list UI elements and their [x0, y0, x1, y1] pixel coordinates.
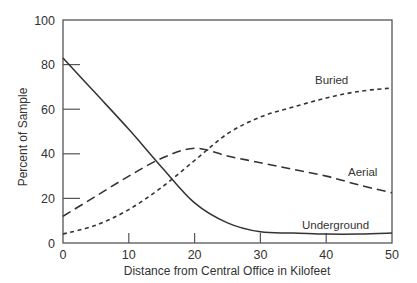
y-tick-label: 80	[41, 58, 55, 72]
x-tick-label: 40	[319, 248, 333, 262]
series-label-underground: Underground	[302, 219, 369, 231]
y-axis-title: Percent of Sample	[16, 87, 30, 186]
x-axis-title: Distance from Central Office in Kilofeet	[124, 264, 331, 278]
y-tick-label: 0	[48, 237, 55, 251]
series-line-buried	[63, 88, 392, 234]
y-axis-ticks: 020406080100	[34, 14, 80, 251]
x-tick-label: 0	[60, 248, 67, 262]
x-tick-label: 30	[253, 248, 267, 262]
series-labels: UndergroundAerialBuried	[302, 74, 377, 231]
y-tick-label: 60	[41, 103, 55, 117]
y-tick-label: 40	[41, 147, 55, 161]
y-tick-label: 20	[41, 192, 55, 206]
x-tick-label: 20	[188, 248, 202, 262]
line-chart: 020406080100 01020304050 UndergroundAeri…	[0, 0, 417, 283]
y-tick-label: 100	[34, 14, 55, 28]
series-label-aerial: Aerial	[348, 166, 377, 178]
series-label-buried: Buried	[315, 74, 348, 86]
series-line-aerial	[63, 148, 392, 216]
plot-frame	[63, 20, 392, 243]
x-tick-label: 50	[385, 248, 399, 262]
x-tick-label: 10	[122, 248, 136, 262]
x-axis-ticks: 01020304050	[60, 233, 399, 262]
